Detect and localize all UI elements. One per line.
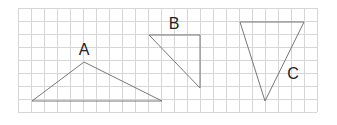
label-c: C [287, 65, 299, 82]
triangle-grid-diagram: A B C [0, 0, 337, 125]
grid-canvas: A B C [0, 0, 337, 125]
label-b: B [169, 15, 180, 32]
triangles: A B C [32, 15, 304, 101]
label-a: A [79, 41, 90, 58]
triangle-c [240, 22, 304, 101]
